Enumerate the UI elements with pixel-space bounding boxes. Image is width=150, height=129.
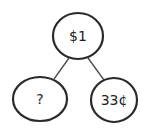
node-part-left-label: ? [36,91,43,107]
node-part-left: ? [13,77,67,121]
node-part-right-label: 33¢ [101,92,128,108]
edge-whole-to-right [88,58,104,80]
edge-whole-to-left [54,58,69,79]
node-whole-label: $1 [69,28,87,44]
node-part-right: 33¢ [91,78,137,122]
node-whole: $1 [53,13,103,59]
number-bond-diagram: $1 ? 33¢ [0,0,150,129]
